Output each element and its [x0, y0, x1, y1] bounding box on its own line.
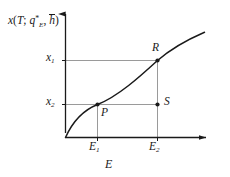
point-marker-p: [95, 102, 99, 106]
y-axis-label: x(T; q*E, h): [8, 15, 59, 29]
point-label-s: S: [164, 96, 170, 108]
x-tick-label-e2-sub: 2: [156, 146, 160, 154]
x-tick-label-e2: E2: [149, 141, 160, 154]
point-label-p: P: [101, 107, 108, 119]
curve-x-of-E: [66, 32, 205, 137]
x-tick-label-e1-base: E: [89, 140, 96, 152]
point-label-r: R: [152, 42, 159, 54]
y-tick-label-x2: x2: [46, 96, 55, 109]
y-tick-label-x1-sub: 1: [51, 57, 55, 65]
figure-container: x(T; q*E, h) E x2 x1 E1 E2 P R S: [0, 0, 230, 177]
x-tick-label-e2-base: E: [149, 140, 156, 152]
x-tick-label-e1-sub: 1: [96, 146, 100, 154]
point-marker-s: [155, 102, 159, 106]
y-axis-label-arg3-hbar: h: [49, 15, 55, 27]
y-axis-label-close: ): [55, 14, 59, 26]
y-tick-label-x2-sub: 2: [51, 101, 55, 109]
x-tick-label-e1: E1: [89, 141, 100, 154]
x-axis-label: E: [105, 158, 112, 170]
point-marker-r: [155, 58, 159, 62]
y-tick-label-x1: x1: [46, 52, 55, 65]
